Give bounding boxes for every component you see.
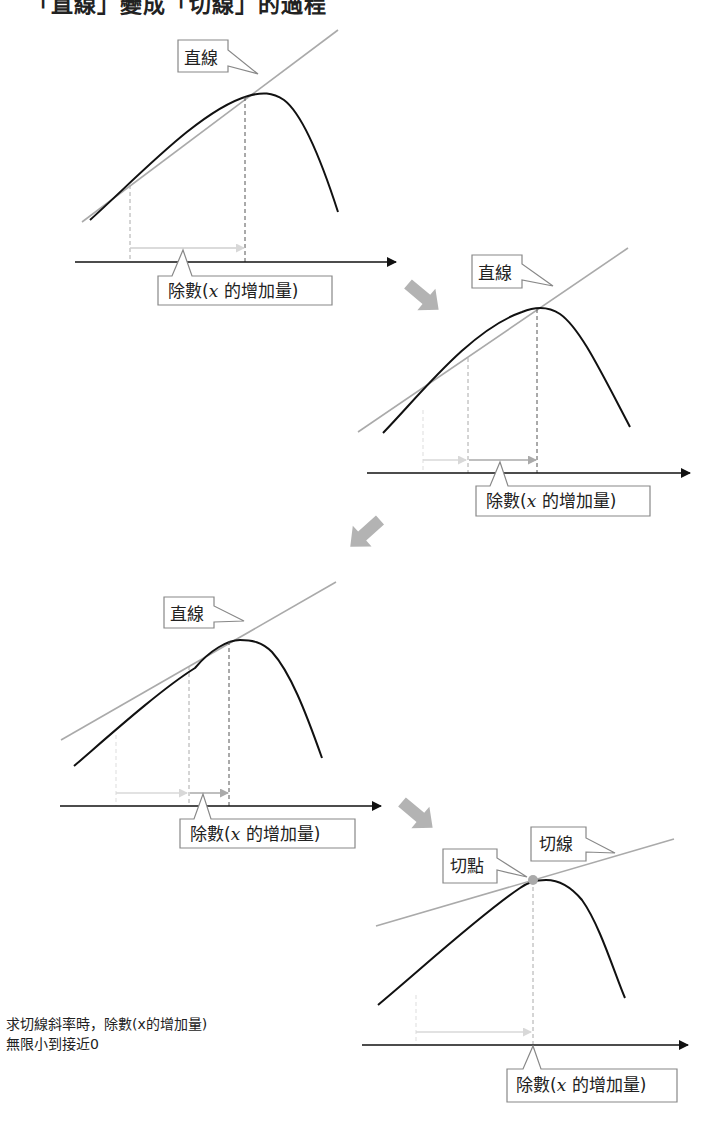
divisor-label-callout: 除數(x 的增加量) — [476, 462, 650, 516]
diagram-canvas: 直線 除數(x 的增加量) 直線 除數(x 的增加量) — [0, 0, 718, 1143]
note-line-2: 無限小到接近0 — [6, 1034, 207, 1054]
line-label: 直線 — [170, 604, 204, 624]
line-label: 直線 — [478, 263, 512, 283]
line-label: 直線 — [184, 48, 218, 68]
diagram-step-4: 切點 切線 除數(x 的增加量) — [362, 827, 688, 1102]
flow-arrow-down-right — [399, 273, 448, 320]
line-label-callout: 直線 — [472, 255, 553, 288]
function-curve — [74, 640, 322, 766]
line-label-callout: 切線 — [531, 827, 615, 861]
divisor-label: 除數(x 的增加量) — [190, 824, 320, 844]
flow-arrow-down-left — [341, 510, 389, 558]
line-label-callout: 直線 — [164, 597, 244, 628]
tangent-point — [528, 875, 538, 885]
point-label-callout: 切點 — [443, 849, 527, 883]
point-label: 切點 — [450, 856, 484, 876]
function-curve — [378, 880, 625, 1005]
flow-arrow-down-right — [393, 791, 442, 838]
function-curve — [90, 93, 338, 220]
divisor-label: 除數(x 的增加量) — [516, 1075, 646, 1095]
explanation-note: 求切線斜率時，除數(x的增加量) 無限小到接近0 — [6, 1014, 207, 1054]
line-label-callout: 直線 — [178, 40, 258, 74]
divisor-label: 除數(x 的增加量) — [486, 491, 616, 511]
diagram-step-1: 直線 除數(x 的增加量) — [75, 30, 396, 305]
note-line-1: 求切線斜率時，除數(x的增加量) — [6, 1014, 207, 1034]
line-label: 切線 — [539, 834, 573, 854]
divisor-label-callout: 除數(x 的增加量) — [180, 794, 355, 848]
function-curve — [383, 308, 630, 433]
diagram-step-3: 直線 除數(x 的增加量) — [60, 582, 381, 848]
divisor-label-callout: 除數(x 的增加量) — [507, 1046, 677, 1102]
divisor-label: 除數(x 的增加量) — [168, 281, 298, 301]
tangent-line — [376, 839, 674, 926]
